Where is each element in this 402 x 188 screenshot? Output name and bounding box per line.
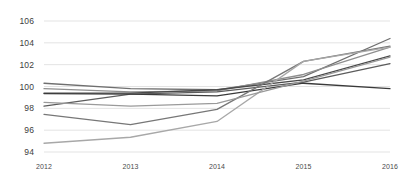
y-tick-label-106: 106 <box>8 17 34 26</box>
chart-plot-area <box>0 0 402 188</box>
x-tick-label-2013: 2013 <box>111 163 151 170</box>
y-tick-label-98: 98 <box>8 104 34 113</box>
x-tick-label-2016: 2016 <box>370 163 402 170</box>
y-tick-label-104: 104 <box>8 39 34 48</box>
x-tick-label-2014: 2014 <box>197 163 237 170</box>
y-tick-label-102: 102 <box>8 61 34 70</box>
y-tick-label-96: 96 <box>8 126 34 135</box>
line-chart: 949698100102104106 20122013201420152016 <box>0 0 402 188</box>
series-lines <box>44 38 390 143</box>
y-tick-label-94: 94 <box>8 148 34 157</box>
x-tick-label-2012: 2012 <box>24 163 64 170</box>
x-tick-label-2015: 2015 <box>284 163 324 170</box>
y-tick-label-100: 100 <box>8 83 34 92</box>
